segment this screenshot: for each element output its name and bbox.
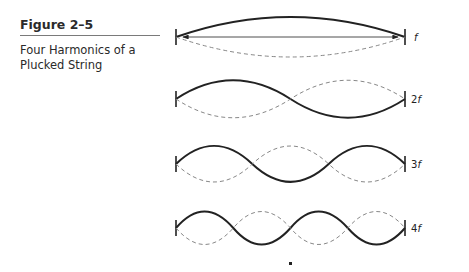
dashed-wave [176, 80, 405, 118]
harmonic-label: 2f [411, 94, 422, 105]
harmonic-1: f [176, 17, 419, 57]
harmonic-label: 3f [411, 159, 422, 170]
harmonic-label: 4f [411, 223, 422, 234]
harmonics-diagram: f 2f 3f 4f [0, 0, 469, 272]
dashed-wave [176, 212, 405, 245]
harmonic-label: f [414, 32, 419, 43]
harmonic-2: 2f [176, 80, 422, 118]
harmonic-4: 4f [176, 212, 422, 245]
dashed-wave [176, 37, 405, 57]
solid-wave [176, 17, 405, 37]
solid-wave [176, 146, 405, 182]
dashed-wave [176, 146, 405, 182]
dot-marker [289, 262, 292, 265]
harmonic-3: 3f [176, 146, 422, 182]
